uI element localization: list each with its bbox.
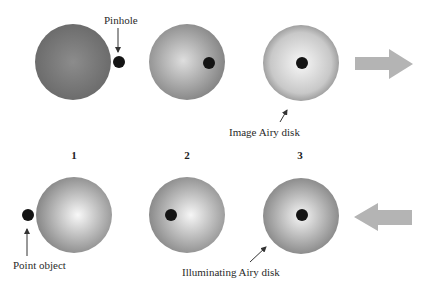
image-airy-disk-label: Image Airy disk: [229, 126, 300, 138]
stage-number-2: 2: [184, 149, 190, 161]
stage-number-1: 1: [71, 149, 77, 161]
point-object-dot-3: [296, 209, 308, 221]
stage-number-3: 3: [297, 149, 303, 161]
illuminating-airy-pointer-arrow: [250, 247, 266, 262]
point-object-dot: [22, 209, 34, 221]
airy-disk-bottom-2: [149, 177, 225, 253]
illuminating-airy-disk-label: Illuminating Airy disk: [182, 266, 280, 278]
diagram: Pinhole Image Airy disk 1 2 3 Point obje…: [0, 0, 430, 285]
airy-disk-bottom-1: [36, 177, 112, 253]
point-object-dot-2: [165, 209, 177, 221]
bottom-row: [22, 177, 412, 262]
pinhole-dot-2: [203, 57, 215, 69]
top-row: [35, 24, 413, 122]
pinhole-label: Pinhole: [104, 14, 138, 26]
right-arrow-icon: [355, 49, 413, 79]
left-arrow-icon: [354, 203, 412, 231]
airy-disk-top-1: [35, 24, 111, 100]
image-airy-pointer-arrow: [280, 110, 287, 122]
diagram-canvas: [0, 0, 430, 285]
pinhole-dot: [113, 56, 125, 68]
point-object-label: Point object: [13, 259, 66, 271]
pinhole-dot-3: [296, 57, 308, 69]
